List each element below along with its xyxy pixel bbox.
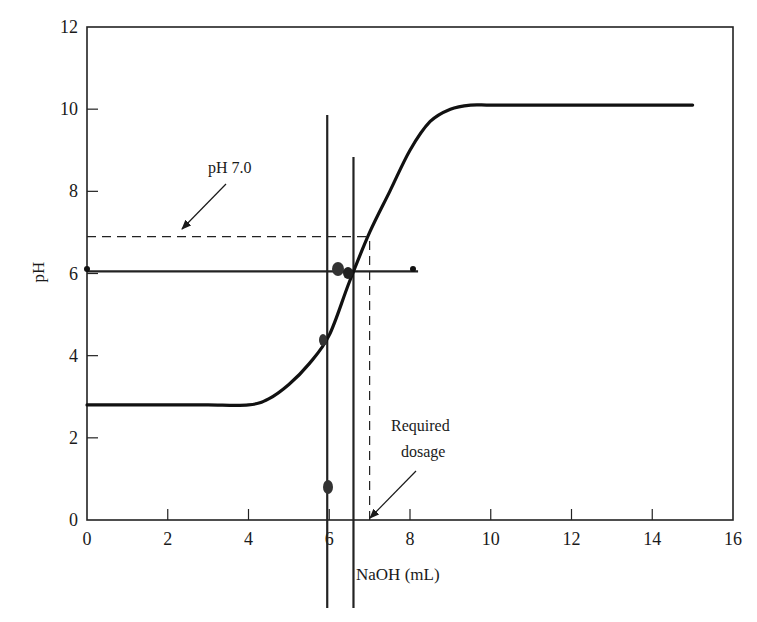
x-tick-label: 4: [244, 529, 253, 549]
x-axis-ticks: 0246810121416: [83, 509, 743, 549]
x-tick-label: 14: [643, 529, 661, 549]
y-tick-label: 8: [69, 181, 78, 201]
annotation-ph7: pH 7.0: [208, 159, 252, 177]
titration-chart: 024681012 0246810121416 pH NaOH (mL) pH …: [0, 0, 757, 622]
y-tick-label: 4: [69, 346, 78, 366]
titration-curve: [87, 105, 693, 406]
annotation-ph7-arrow: [182, 184, 226, 229]
annotation-required-arrow: [370, 471, 416, 518]
x-tick-label: 12: [563, 529, 581, 549]
y-tick-label: 6: [69, 264, 78, 284]
annotation-required: Required: [391, 417, 450, 435]
y-tick-label: 0: [69, 510, 78, 530]
annotation-dosage: dosage: [401, 443, 445, 461]
y-axis-ticks: 024681012: [60, 17, 98, 530]
y-axis-label: pH: [29, 262, 48, 283]
x-tick-label: 8: [406, 529, 415, 549]
x-tick-label: 2: [163, 529, 172, 549]
x-tick-label: 0: [83, 529, 92, 549]
x-tick-label: 16: [724, 529, 742, 549]
x-axis-label: NaOH (mL): [356, 565, 440, 584]
x-tick-label: 10: [482, 529, 500, 549]
y-tick-label: 2: [69, 428, 78, 448]
ink-marks: [84, 262, 416, 494]
y-tick-label: 10: [60, 99, 78, 119]
y-tick-label: 12: [60, 17, 78, 37]
x-tick-label: 6: [325, 529, 334, 549]
